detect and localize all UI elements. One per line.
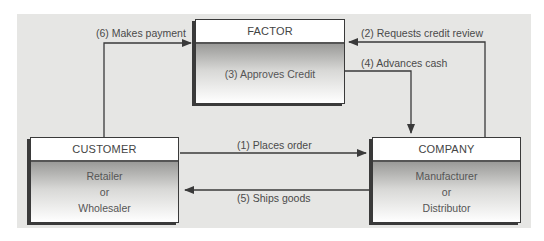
arrow-makes-payment	[104, 43, 191, 137]
company-body-line: Manufacturer	[416, 168, 478, 184]
company-node: COMPANY Manufacturer or Distributor	[372, 137, 521, 223]
customer-body: Retailer or Wholesaler	[31, 162, 178, 222]
label-requests-credit-review: (2) Requests credit review	[361, 27, 483, 39]
company-body: Manufacturer or Distributor	[373, 162, 520, 222]
factor-body: (3) Approves Credit	[196, 44, 344, 103]
company-title: COMPANY	[373, 138, 520, 162]
label-makes-payment: (6) Makes payment	[96, 27, 186, 39]
customer-body-line: Wholesaler	[78, 200, 131, 216]
label-ships-goods: (5) Ships goods	[237, 192, 311, 204]
customer-body-line: or	[100, 184, 109, 200]
company-body-line: or	[442, 184, 451, 200]
customer-node: CUSTOMER Retailer or Wholesaler	[30, 137, 179, 223]
customer-title: CUSTOMER	[31, 138, 178, 162]
arrow-advances-cash	[345, 71, 411, 133]
factor-title: FACTOR	[196, 20, 344, 44]
factor-node: FACTOR (3) Approves Credit	[195, 19, 345, 104]
company-body-line: Distributor	[423, 200, 471, 216]
label-advances-cash: (4) Advances cash	[361, 57, 447, 69]
customer-body-line: Retailer	[86, 168, 122, 184]
factor-body-line: (3) Approves Credit	[225, 66, 315, 82]
label-places-order: (1) Places order	[237, 139, 312, 151]
